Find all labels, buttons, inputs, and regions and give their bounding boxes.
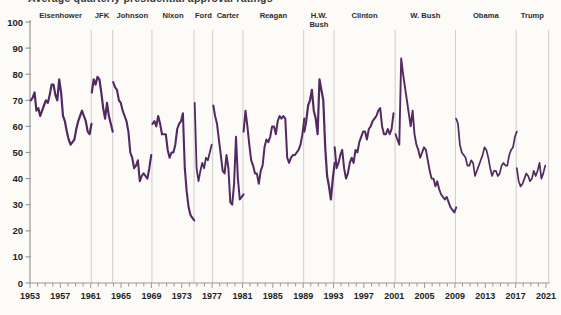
president-label-ford: Ford bbox=[195, 11, 212, 20]
y-tick-label: 50 bbox=[12, 147, 23, 158]
president-label-trump: Trump bbox=[521, 11, 545, 20]
approval-line-eisenhower bbox=[31, 79, 92, 144]
x-tick-label: 1977 bbox=[202, 291, 222, 301]
president-label-clinton: Clinton bbox=[352, 11, 379, 20]
approval-line-jfk bbox=[92, 77, 113, 132]
president-label-nixon: Nixon bbox=[162, 11, 183, 20]
approval-line-carter bbox=[213, 106, 243, 205]
y-tick-label: 90 bbox=[12, 43, 23, 54]
x-tick-label: 1969 bbox=[141, 291, 161, 301]
x-tick-label: 1961 bbox=[81, 291, 101, 301]
x-tick-label: 1993 bbox=[324, 291, 344, 301]
president-label-eisenhower: Eisenhower bbox=[39, 11, 82, 20]
approval-line-nixon bbox=[153, 113, 195, 220]
x-tick-label: 2013 bbox=[475, 291, 495, 301]
y-tick-label: 40 bbox=[12, 173, 23, 184]
x-tick-label: 1957 bbox=[50, 291, 70, 301]
approval-ratings-figure: Average quarterly presidential approval … bbox=[0, 0, 561, 315]
approval-line-johnson bbox=[113, 82, 151, 181]
chart-title: Average quarterly presidential approval … bbox=[28, 0, 273, 4]
x-tick-label: 2001 bbox=[384, 291, 404, 301]
president-label-johnson: Johnson bbox=[117, 11, 149, 20]
x-tick-label: 1985 bbox=[263, 291, 283, 301]
y-tick-label: 10 bbox=[12, 251, 23, 262]
y-tick-label: 70 bbox=[12, 95, 23, 106]
president-label-w-bush: W. Bush bbox=[410, 11, 440, 20]
approval-line-obama bbox=[456, 119, 517, 176]
president-label-h-w-bush: H.W. bbox=[311, 11, 327, 20]
y-tick-label: 80 bbox=[12, 69, 23, 80]
president-label-jfk: JFK bbox=[95, 11, 110, 20]
approval-line-trump bbox=[517, 163, 545, 187]
x-tick-label: 1989 bbox=[293, 291, 313, 301]
y-tick-label: 0 bbox=[18, 278, 23, 289]
x-tick-label: 1997 bbox=[354, 291, 374, 301]
approval-line-ford bbox=[195, 103, 212, 181]
approval-line-h-w-bush bbox=[304, 79, 334, 199]
x-tick-label: 2017 bbox=[506, 291, 526, 301]
president-label-h-w-bush: Bush bbox=[309, 20, 328, 29]
approval-line-w-bush bbox=[396, 59, 457, 213]
x-tick-label: 1953 bbox=[20, 291, 40, 301]
approval-line-clinton bbox=[335, 108, 394, 179]
approval-line-reagan bbox=[244, 111, 305, 184]
x-tick-label: 1973 bbox=[172, 291, 192, 301]
x-tick-label: 2021 bbox=[536, 291, 556, 301]
president-label-carter: Carter bbox=[217, 11, 239, 20]
presidential-approval-chart: 0102030405060708090100195319571961196519… bbox=[0, 0, 561, 315]
y-tick-label: 100 bbox=[7, 17, 23, 28]
x-tick-label: 1965 bbox=[111, 291, 131, 301]
x-tick-label: 2005 bbox=[415, 291, 435, 301]
y-tick-label: 20 bbox=[12, 225, 23, 236]
president-label-reagan: Reagan bbox=[260, 11, 288, 20]
y-tick-label: 30 bbox=[12, 199, 23, 210]
president-label-obama: Obama bbox=[473, 11, 500, 20]
x-tick-label: 2009 bbox=[445, 291, 465, 301]
x-tick-label: 1981 bbox=[232, 291, 252, 301]
y-tick-label: 60 bbox=[12, 121, 23, 132]
